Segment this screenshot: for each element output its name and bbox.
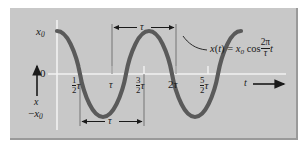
y-label-x0-top: x0 [36,26,45,39]
equation-cos: cos [247,43,261,54]
tau-symbol: τ [140,79,144,91]
y-label-x0-top-sub: 0 [41,30,45,39]
oscillation-plot [10,8,298,140]
x-tick-label-half-tau: 1 2 τ [72,76,80,95]
equation-callout: x(t) = x0 cos 2π τ t [210,38,273,58]
tau-symbol: τ [140,21,144,32]
equation-leader-line [183,36,207,50]
tau-symbol: τ [108,115,112,126]
x-tick-label-tau: τ [109,80,113,90]
y-label-zero: 0 [40,68,46,79]
equation-equals: = [227,43,233,54]
tau-symbol: τ [174,78,178,90]
equation-variable: t [270,43,273,54]
x-axis-name-text: t [244,77,247,88]
y-axis-name-text: x [34,96,38,107]
equation-paren-close: ) [221,43,225,54]
x-axis-name: t [244,78,247,88]
figure-root: x0 0 −x0 x t 1 2 τ τ 3 2 [0,0,307,148]
tau-symbol: τ [109,79,113,90]
tau-symbol: τ [204,79,208,91]
fraction-numerator: 2π [261,38,270,48]
y-axis-name: x [34,97,38,107]
x-tick-label-five-half-tau: 5 2 τ [200,76,208,95]
x-tick-label-three-half-tau: 3 2 τ [136,76,144,95]
period-label-top: τ [140,22,144,32]
equation-amplitude-sub: 0 [240,48,244,56]
equation-fraction: 2π τ [261,38,270,58]
y-label-zero-text: 0 [40,67,46,79]
fraction-denominator: τ [261,48,270,59]
y-label-x0-bottom-sub: 0 [39,112,43,121]
x-tick-label-two-tau: 2τ [168,79,177,90]
figure-panel: x0 0 −x0 x t 1 2 τ τ 3 2 [10,8,298,140]
y-label-x0-bottom: −x0 [28,108,43,121]
tau-symbol: τ [76,79,80,91]
period-label-bottom: τ [108,116,112,126]
x-axis-ticks [80,66,208,74]
